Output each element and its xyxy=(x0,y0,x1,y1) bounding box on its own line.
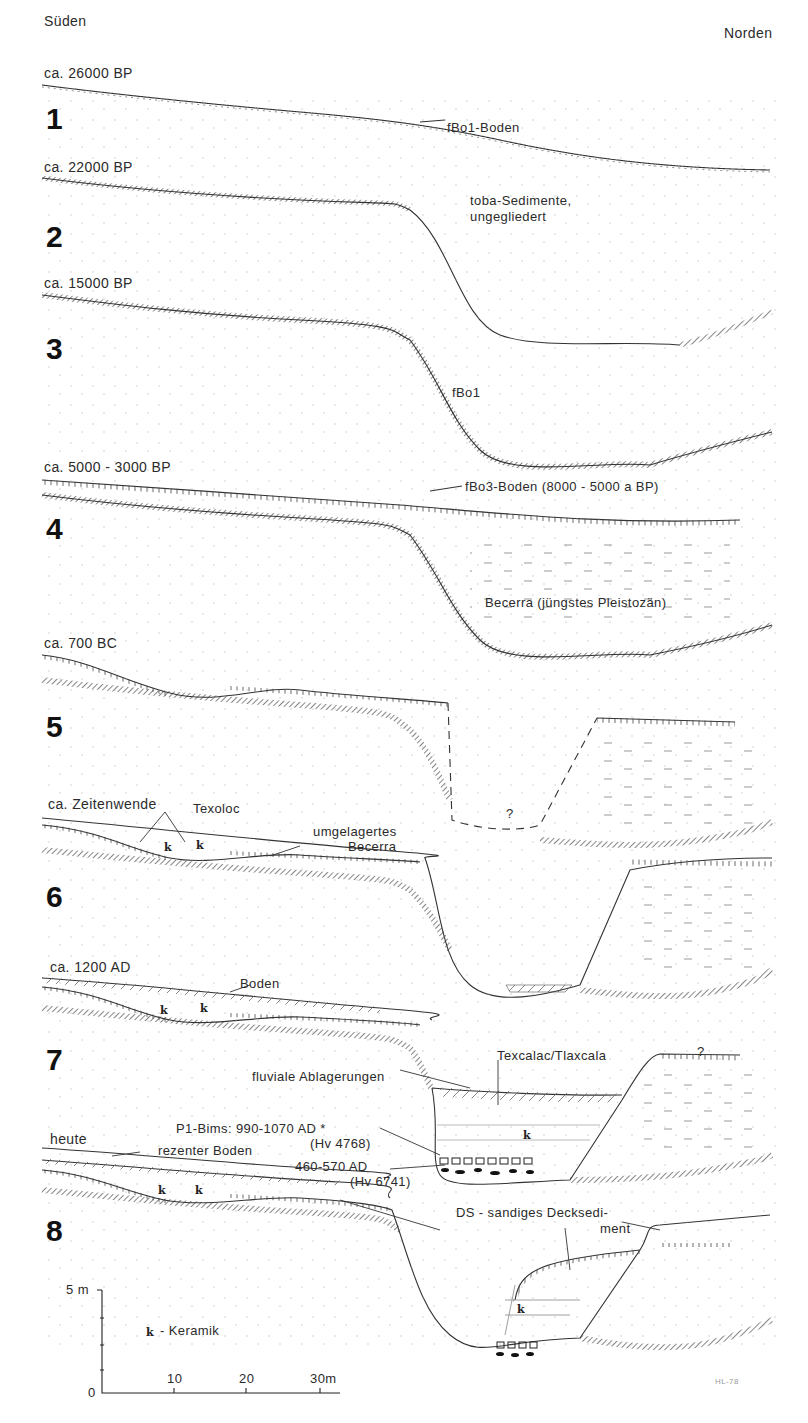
keramik-marker: k xyxy=(523,1130,531,1141)
legend-keramik-label: - Keramik xyxy=(160,1324,219,1337)
toba-sediments-label-2: ungegliedert xyxy=(470,210,546,223)
stage-5-number: 5 xyxy=(46,712,63,742)
stage-6-number: 6 xyxy=(46,882,63,912)
stage-4-date: ca. 5000 - 3000 BP xyxy=(44,460,171,474)
boden-label: Boden xyxy=(240,977,280,990)
stage-4-number: 4 xyxy=(46,514,63,544)
keramik-marker: k xyxy=(158,1185,166,1196)
stage-1-date: ca. 26000 BP xyxy=(44,66,133,80)
fluviale-ablagerungen-label: fluviale Ablagerungen xyxy=(252,1070,385,1083)
stage-2-date: ca. 22000 BP xyxy=(44,160,133,174)
stage-7-number: 7 xyxy=(46,1045,63,1075)
unknown-marker-stage-5: ? xyxy=(506,807,514,820)
scale-tick-10: 10 xyxy=(167,1372,182,1385)
fbo3-boden-label: fBo3-Boden (8000 - 5000 a BP) xyxy=(465,480,659,493)
scale-tick-30m: 30m xyxy=(310,1372,337,1385)
p1-bims-lab-code: (Hv 4768) xyxy=(310,1137,371,1150)
stage-7-date: ca. 1200 AD xyxy=(50,960,131,974)
author-signature: HL-78 xyxy=(715,1378,739,1386)
texoloc-label: Texoloc xyxy=(193,802,240,815)
fbo1-label: fBo1 xyxy=(452,386,480,399)
keramik-marker: k xyxy=(195,1185,203,1196)
ds-sandiges-decksediment-label-1: DS - sandiges Decksedi- xyxy=(456,1206,608,1219)
legend-keramik-symbol: k xyxy=(146,1327,154,1338)
orientation-south-label: Süden xyxy=(44,14,86,28)
stage-2-number: 2 xyxy=(46,222,63,252)
stage-5-date: ca. 700 BC xyxy=(44,636,117,650)
stage-3-number: 3 xyxy=(46,334,63,364)
stage-6-date: ca. Zeitenwende xyxy=(48,797,157,811)
stage-8-date: heute xyxy=(50,1132,87,1146)
texcalac-tlaxcala-label: Texcalac/Tlaxcala xyxy=(497,1049,606,1062)
keramik-marker: k xyxy=(196,840,204,851)
stage-8-number: 8 xyxy=(46,1216,63,1246)
cross-section-drawing xyxy=(0,0,808,1423)
umgelagertes-becerra-label-1: umgelagertes xyxy=(313,825,397,838)
unknown-marker-stage-7: ? xyxy=(697,1045,705,1058)
date-460-570-lab-code: (Hv 6741) xyxy=(350,1175,411,1188)
scale-vertical-bottom-label: 0 xyxy=(88,1386,96,1399)
scale-tick-20: 20 xyxy=(239,1372,254,1385)
stage-1-number: 1 xyxy=(46,104,63,134)
stage-3-date: ca. 15000 BP xyxy=(44,276,133,290)
becerra-label: Becerra (jüngstes Pleistozän) xyxy=(485,596,666,609)
p1-bims-date-label: P1-Bims: 990-1070 AD * xyxy=(176,1122,326,1135)
rezenter-boden-label: rezenter Boden xyxy=(158,1144,253,1157)
keramik-marker: k xyxy=(200,1003,208,1014)
ds-sandiges-decksediment-label-2: ment xyxy=(600,1222,631,1235)
keramik-marker: k xyxy=(517,1304,525,1315)
keramik-marker: k xyxy=(164,842,172,853)
orientation-north-label: Norden xyxy=(724,26,772,40)
umgelagertes-becerra-label-2: Becerra xyxy=(348,840,396,853)
keramik-marker: k xyxy=(160,1005,168,1016)
date-460-570-label: 460-570 AD xyxy=(295,1160,368,1173)
fbo1-boden-label: fBo1-Boden xyxy=(447,121,520,134)
toba-sediments-label-1: toba-Sedimente, xyxy=(470,194,571,207)
scale-vertical-top-label: 5 m xyxy=(66,1283,89,1296)
